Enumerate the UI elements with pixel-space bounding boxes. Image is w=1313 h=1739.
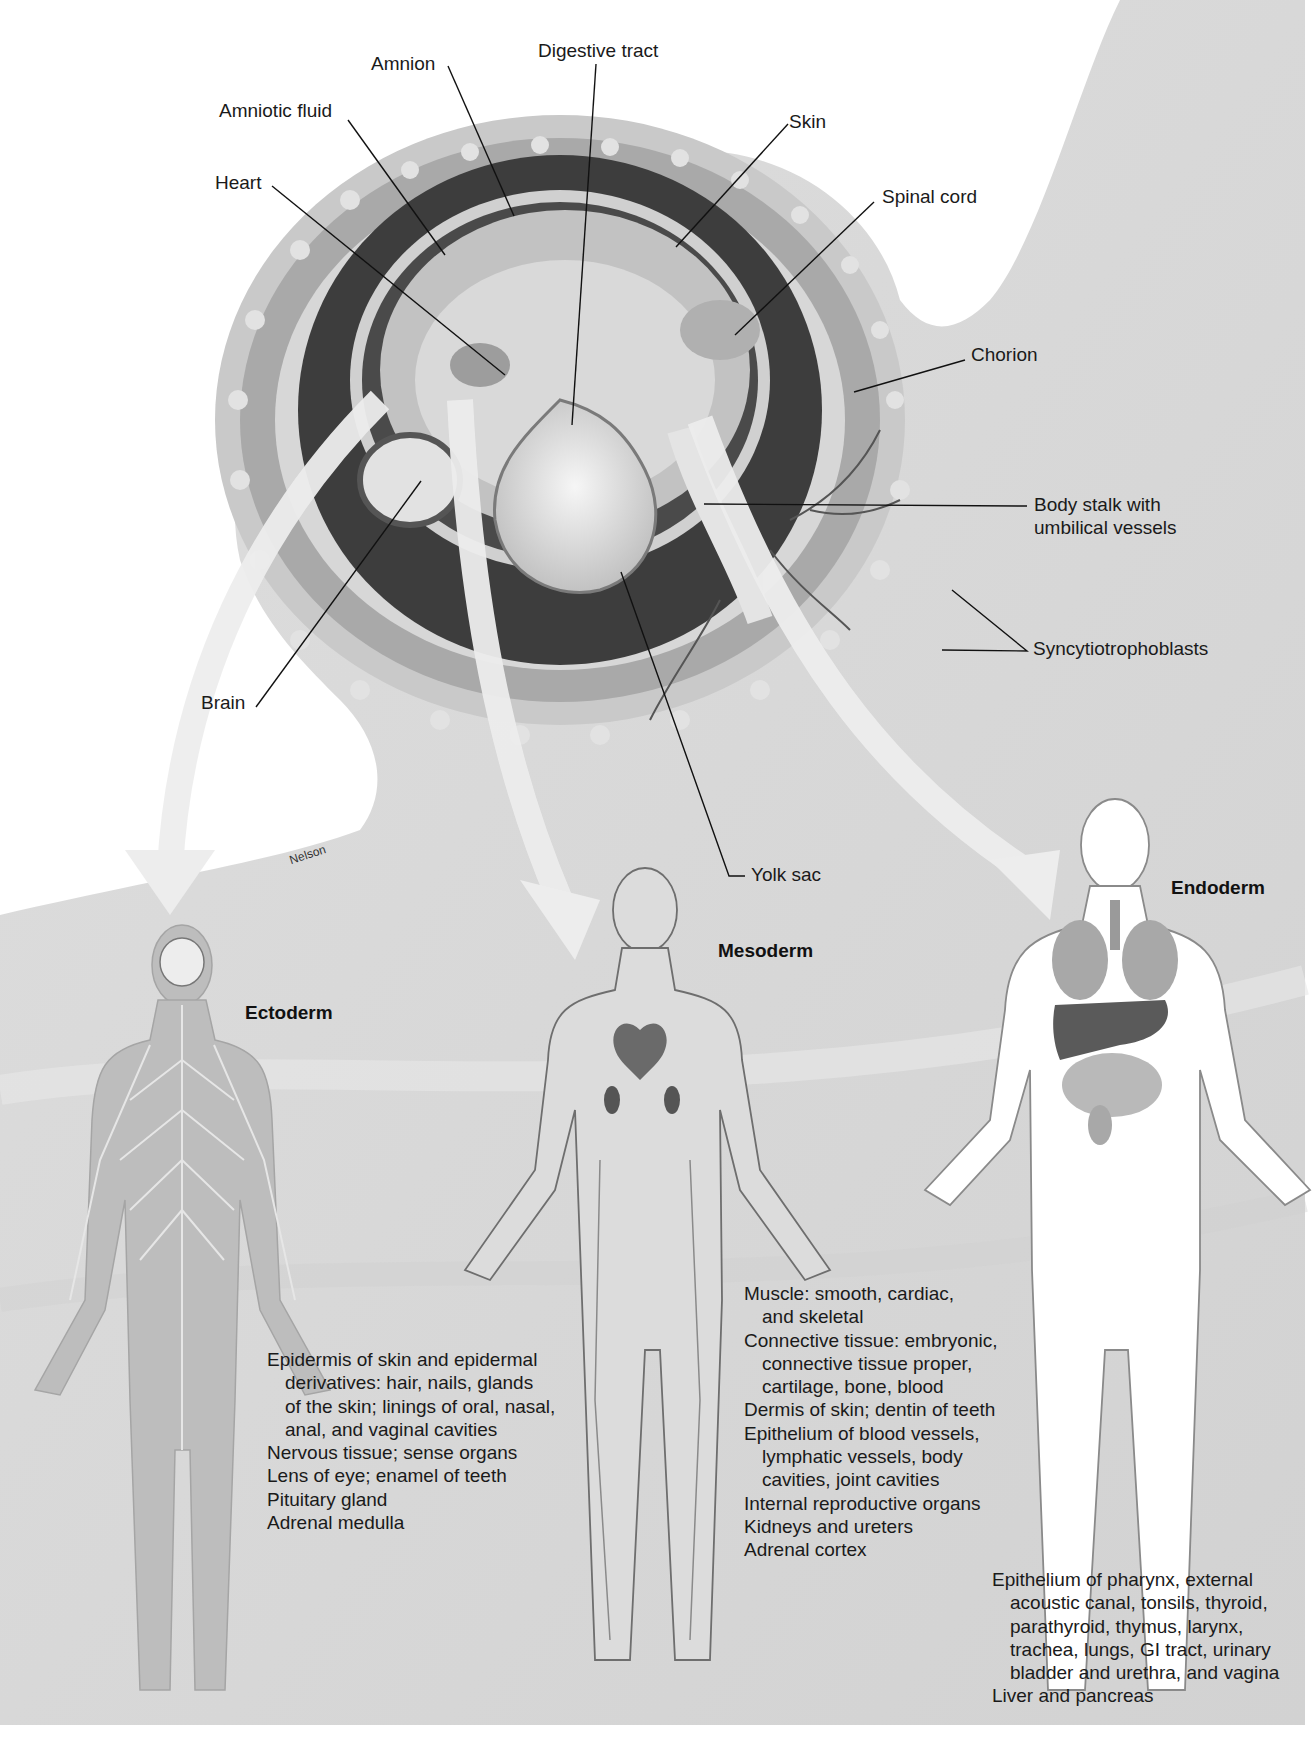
ectoderm-derivatives: Epidermis of skin and epidermal derivati…	[267, 1348, 555, 1534]
derivative-item: Connective tissue: embryonic,	[744, 1329, 997, 1352]
derivative-item: and skeletal	[744, 1305, 997, 1328]
figure-canvas: Amnion Digestive tract Amniotic fluid Sk…	[0, 0, 1313, 1739]
derivative-item: bladder and urethra, and vagina	[992, 1661, 1279, 1684]
derivative-item: cartilage, bone, blood	[744, 1375, 997, 1398]
leader-heart	[272, 186, 505, 375]
label-skin: Skin	[789, 111, 826, 133]
label-chorion: Chorion	[971, 344, 1038, 366]
label-amnion: Amnion	[371, 53, 435, 75]
leader-lines	[0, 0, 1313, 1739]
mesoderm-derivatives: Muscle: smooth, cardiac, and skeletal Co…	[744, 1282, 997, 1562]
leader-yolk-sac	[621, 572, 745, 876]
derivative-item: Adrenal medulla	[267, 1511, 555, 1534]
derivative-item: derivatives: hair, nails, glands	[267, 1371, 555, 1394]
label-amniotic-fluid: Amniotic fluid	[219, 100, 332, 122]
derivative-item: Epithelium of blood vessels,	[744, 1422, 997, 1445]
derivative-item: Pituitary gland	[267, 1488, 555, 1511]
leader-digestive-tract	[572, 64, 596, 425]
leader-amnion	[448, 66, 514, 216]
derivative-item: Muscle: smooth, cardiac,	[744, 1282, 997, 1305]
label-body-stalk: Body stalk with	[1034, 494, 1161, 516]
derivative-item: Adrenal cortex	[744, 1538, 997, 1561]
derivative-item: cavities, joint cavities	[744, 1468, 997, 1491]
derivative-item: Liver and pancreas	[992, 1684, 1279, 1707]
derivative-item: acoustic canal, tonsils, thyroid,	[992, 1591, 1279, 1614]
label-syncytiotrophoblasts: Syncytiotrophoblasts	[1033, 638, 1208, 660]
leader-body-stalk	[704, 504, 1027, 506]
label-heart: Heart	[215, 172, 261, 194]
derivative-item: parathyroid, thymus, larynx,	[992, 1615, 1279, 1638]
leader-spinal-cord	[735, 202, 874, 335]
leader-amniotic-fluid	[348, 120, 445, 255]
derivative-item: lymphatic vessels, body	[744, 1445, 997, 1468]
leader-brain	[256, 481, 421, 707]
derivative-item: Nervous tissue; sense organs	[267, 1441, 555, 1464]
derivative-item: Dermis of skin; dentin of teeth	[744, 1398, 997, 1421]
heading-mesoderm: Mesoderm	[718, 940, 813, 962]
label-spinal-cord: Spinal cord	[882, 186, 977, 208]
derivative-item: Kidneys and ureters	[744, 1515, 997, 1538]
leader-skin	[676, 124, 788, 247]
heading-ectoderm: Ectoderm	[245, 1002, 333, 1024]
derivative-item: Epidermis of skin and epidermal	[267, 1348, 555, 1371]
leader-chorion	[854, 360, 965, 392]
derivative-item: of the skin; linings of oral, nasal,	[267, 1395, 555, 1418]
leader-syncytiotrophoblasts	[942, 590, 1027, 651]
derivative-item: Internal reproductive organs	[744, 1492, 997, 1515]
label-brain: Brain	[201, 692, 245, 714]
label-yolk-sac: Yolk sac	[751, 864, 821, 886]
derivative-item: connective tissue proper,	[744, 1352, 997, 1375]
derivative-item: anal, and vaginal cavities	[267, 1418, 555, 1441]
derivative-item: trachea, lungs, GI tract, urinary	[992, 1638, 1279, 1661]
derivative-item: Epithelium of pharynx, external	[992, 1568, 1279, 1591]
endoderm-derivatives: Epithelium of pharynx, external acoustic…	[992, 1568, 1279, 1708]
derivative-item: Lens of eye; enamel of teeth	[267, 1464, 555, 1487]
label-digestive-tract: Digestive tract	[538, 40, 658, 62]
label-umbilical-vessels: umbilical vessels	[1034, 517, 1177, 539]
heading-endoderm: Endoderm	[1171, 877, 1265, 899]
